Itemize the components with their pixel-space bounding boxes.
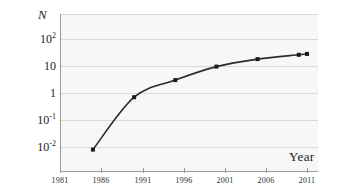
gridline-1e1 (60, 66, 318, 67)
x-tick-mark-1996 (184, 168, 185, 173)
x-tick-label-1986: 1986 (81, 176, 121, 185)
x-tick-label-2006: 2006 (246, 176, 286, 185)
x-axis-title: Year (289, 150, 315, 164)
x-tick-mark-2011 (307, 168, 308, 173)
x-tick-label-1981: 1981 (40, 176, 80, 185)
x-tick-mark-1991 (143, 168, 144, 173)
plot-area (60, 14, 318, 172)
x-tick-mark-2006 (266, 168, 267, 173)
x-tick-label-2011: 2011 (287, 176, 327, 185)
x-tick-mark-1986 (101, 168, 102, 173)
y-tick-label-1em1: 10-1 (12, 114, 56, 126)
y-axis-line (60, 14, 61, 172)
x-tick-mark-1981 (60, 168, 61, 173)
x-tick-label-1996: 1996 (164, 176, 204, 185)
gridline-top (60, 14, 318, 15)
y-tick-label-1em2: 10-2 (12, 141, 56, 153)
gridline-1em2 (60, 147, 318, 148)
y-tick-label-1e1: 10 (12, 60, 56, 72)
x-axis-line (60, 171, 318, 172)
x-tick-label-1991: 1991 (123, 176, 163, 185)
gridline-1e0 (60, 93, 318, 94)
gridline-1e2 (60, 39, 318, 40)
gridline-1em1 (60, 120, 318, 121)
x-tick-label-2001: 2001 (205, 176, 245, 185)
chart-figure: 102 10 1 10-1 10-2 1981 1986 1991 1996 2… (0, 0, 348, 194)
y-axis-tick-labels: 102 10 1 10-1 10-2 (8, 0, 56, 194)
y-axis-title: N (38, 8, 47, 22)
x-tick-mark-2001 (225, 168, 226, 173)
y-tick-label-1e2: 102 (12, 33, 56, 45)
y-tick-label-1e0: 1 (12, 87, 56, 99)
